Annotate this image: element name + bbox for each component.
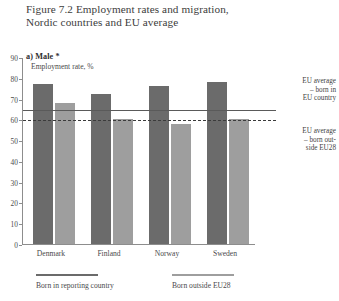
reference-line-eu-average-born-outside-eu28 [23,120,276,121]
x-axis-label-denmark: Denmark [21,249,81,258]
x-axis-label-sweden: Sweden [195,249,255,258]
y-axis-tick-mark [19,58,22,59]
annotation-line1: EU average [258,77,336,86]
y-axis-tick-mark [19,141,22,142]
bar-group [139,58,197,244]
figure-title-line1: Figure 7.2 Employment rates and migratio… [26,3,229,15]
legend-swatch-dark [36,274,98,276]
y-axis-tick-mark [19,183,22,184]
bar-born-in-reporting-country [91,94,111,244]
plot-area: 0102030405060708090 [22,58,254,245]
bar-group [23,58,81,244]
y-axis-tick-mark [19,203,22,204]
y-axis-tick-label: 70 [2,95,18,104]
bar-group [81,58,139,244]
figure-title-line2: Nordic countries and EU average [26,16,326,29]
y-axis-tick-label: 20 [2,199,18,208]
annotation-line1: EU average [258,127,336,136]
bar-born-in-reporting-country [207,82,227,244]
y-axis-tick-mark [19,120,22,121]
figure-container: Figure 7.2 Employment rates and migratio… [0,0,339,301]
y-axis-tick-label: 60 [2,116,18,125]
y-axis-tick-label: 90 [2,54,18,63]
annotation-line2: – born out- [258,136,336,145]
y-axis-tick-label: 0 [2,241,18,250]
y-axis-tick-label: 10 [2,220,18,229]
x-axis-label-norway: Norway [137,249,197,258]
y-axis-tick-label: 50 [2,137,18,146]
annotation-line2: – born in [258,86,336,95]
annotation-eu-average-born-in-eu: EU average – born in EU country [258,77,336,103]
legend-swatch-light [172,274,234,276]
annotation-eu-average-born-outside-eu28: EU average – born out- side EU28 [258,127,336,153]
bar-born-outside-eu28 [171,124,191,245]
y-axis-tick-label: 40 [2,157,18,166]
annotation-line3: side EU28 [258,144,336,153]
bar-born-outside-eu28 [55,103,75,244]
bar-group [197,58,255,244]
y-axis-tick-label: 30 [2,178,18,187]
y-axis-tick-mark [19,79,22,80]
annotation-line3: EU country [258,94,336,103]
bar-born-outside-eu28 [113,119,133,244]
y-axis-tick-label: 80 [2,74,18,83]
x-axis-line [22,244,255,245]
y-axis-tick-mark [19,162,22,163]
y-axis-tick-mark [19,100,22,101]
y-axis-tick-mark [19,245,22,246]
bar-series-container [23,58,254,244]
legend-label: Born outside EU28 [172,281,231,290]
bar-born-outside-eu28 [229,119,249,244]
reference-line-eu-average-born-in-eu [23,110,276,111]
x-axis-label-finland: Finland [79,249,139,258]
legend-label: Born in reporting country [36,281,114,290]
bar-born-in-reporting-country [33,84,53,244]
y-axis-tick-mark [19,224,22,225]
figure-title: Figure 7.2 Employment rates and migratio… [26,3,326,29]
